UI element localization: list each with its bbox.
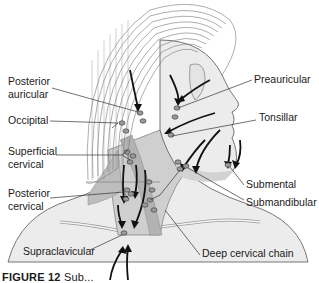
label-preauricular: Preauricular — [254, 73, 311, 86]
label-submandibular: Submandibular — [246, 196, 317, 209]
label-posterior-auricular: Posterior auricular — [8, 75, 50, 101]
head-neck-illustration — [0, 0, 319, 283]
caption-prefix: FIGURE 12 — [2, 271, 61, 283]
label-line-2: auricular — [8, 88, 50, 101]
label-superficial-cervical: Superficial cervical — [8, 145, 57, 171]
label-line-1: Posterior — [8, 75, 50, 88]
lymph-node-diagram: Posterior auricular Occipital Superficia… — [0, 0, 319, 283]
label-line-1: Superficial — [8, 145, 57, 158]
label-line-2: cervical — [8, 200, 50, 213]
caption-text: Sub... — [64, 271, 94, 283]
label-supraclavicular: Supraclavicular — [23, 245, 95, 258]
label-line-1: Posterior — [8, 187, 50, 200]
label-tonsillar: Tonsillar — [259, 111, 298, 124]
label-submental: Submental — [246, 178, 296, 191]
label-deep-cervical-chain: Deep cervical chain — [202, 247, 294, 260]
label-occipital: Occipital — [8, 114, 48, 127]
label-posterior-cervical: Posterior cervical — [8, 187, 50, 213]
figure-caption: FIGURE 12 Sub... — [2, 271, 94, 283]
label-line-2: cervical — [8, 158, 57, 171]
